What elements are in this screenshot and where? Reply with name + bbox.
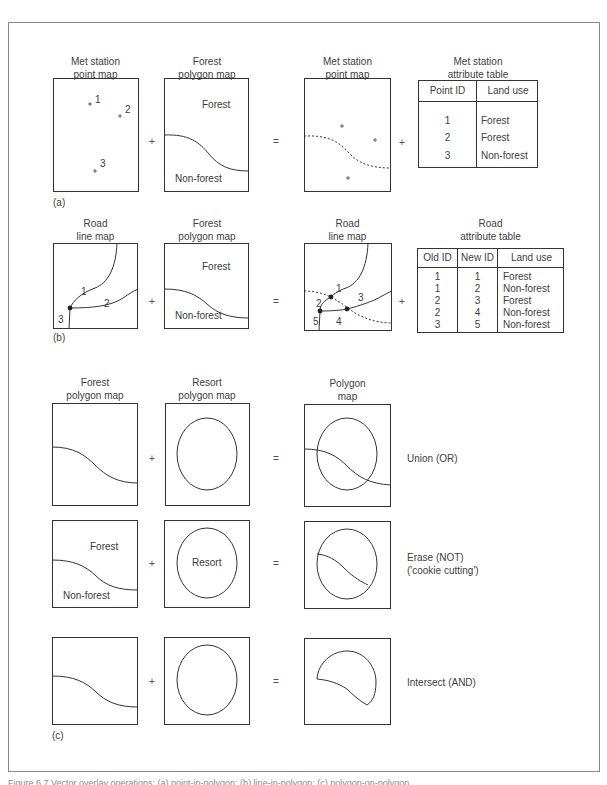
table-row-1-landuse: Forest (481, 115, 509, 126)
panel-b-output-title: Road line map (304, 217, 391, 243)
title-line: polygon map (164, 230, 250, 243)
title-line: Road (417, 217, 564, 230)
title-line: Met station (418, 55, 538, 68)
operation-description: ('cookie cutting') (407, 564, 479, 577)
table-row-3-old: 2 (418, 295, 457, 307)
operation-name: Intersect (AND) (407, 676, 476, 689)
forest-polygon-map (52, 403, 138, 506)
point-label-2: 2 (125, 104, 131, 115)
erase-result-map (304, 521, 391, 609)
road-label-4: 4 (336, 316, 342, 327)
operation-name: Erase (NOT) (407, 551, 479, 564)
intersect-result-map (304, 638, 391, 725)
table-row-4-old: 2 (418, 307, 457, 319)
title-line: Polygon (304, 377, 391, 390)
road-label-2: 2 (104, 298, 110, 309)
road-line-map (53, 243, 138, 329)
panel-b-input1-title: Road line map (53, 217, 138, 243)
panel-b-table-title: Road attribute table (417, 217, 564, 243)
road-label-3: 3 (58, 314, 64, 325)
forest-label: Forest (90, 541, 118, 552)
title-line: Forest (164, 217, 250, 230)
plus-operator: + (149, 453, 155, 464)
equals-operator: = (273, 453, 279, 464)
equals-operator: = (273, 558, 279, 569)
table-row-3-new: 3 (458, 295, 497, 307)
panel-a-label: (a) (53, 197, 65, 208)
forest-label: Forest (202, 99, 230, 110)
panel-c-input2-title: Resort polygon map (164, 376, 250, 402)
panel-c-label: (c) (52, 730, 64, 741)
road-label-1: 1 (336, 283, 342, 294)
table-row-2-id: 2 (419, 132, 476, 143)
road-attribute-table: Old ID New ID Land use 1 1 Forest 1 2 No… (417, 248, 564, 333)
road-label-1: 1 (81, 286, 87, 297)
point-label-1: 1 (95, 94, 101, 105)
met-station-attribute-table: Point ID Land use 1 Forest 2 Forest 3 No… (418, 80, 538, 168)
panel-c-output-title: Polygon map (304, 377, 391, 403)
forest-polygon-map (52, 637, 138, 725)
title-line: Met station (53, 55, 138, 68)
forest-label: Forest (202, 261, 230, 272)
title-line: Forest (164, 55, 250, 68)
header-land-use: Land use (477, 85, 539, 96)
plus-operator: + (149, 136, 155, 147)
title-line: polygon map (164, 389, 250, 402)
nonforest-label: Non-forest (63, 590, 110, 601)
plus-operator: + (149, 558, 155, 569)
met-station-overlay-map (304, 78, 391, 192)
panel-a-table-title: Met station attribute table (418, 55, 538, 81)
header-point-id: Point ID (419, 85, 476, 96)
resort-polygon-map (165, 403, 250, 506)
table-row-2-new: 2 (458, 283, 497, 295)
title-line: Met station (304, 55, 391, 68)
header-old-id: Old ID (418, 252, 457, 264)
panel-b-label: (b) (53, 332, 65, 343)
equals-operator: = (273, 136, 279, 147)
plus-operator: + (399, 137, 405, 148)
title-line: Road (304, 217, 391, 230)
title-line: attribute table (417, 230, 564, 243)
title-line: line map (304, 230, 391, 243)
table-row-3-landuse: Non-forest (481, 150, 528, 161)
plus-operator: + (149, 296, 155, 307)
road-label-2: 2 (316, 298, 322, 309)
plus-operator: + (399, 296, 405, 307)
panel-b-input2-title: Forest polygon map (164, 217, 250, 243)
title-line: Resort (164, 376, 250, 389)
point-label-3: 3 (100, 158, 106, 169)
table-row-1-id: 1 (419, 115, 476, 126)
nonforest-label: Non-forest (175, 173, 222, 184)
table-row-5-new: 5 (458, 319, 497, 331)
title-line: line map (53, 230, 138, 243)
union-result-map (304, 404, 391, 507)
equals-operator: = (273, 676, 279, 687)
table-row-4-landuse: Non-forest (503, 307, 550, 319)
table-row-1-landuse: Forest (503, 271, 531, 283)
resort-polygon-map (164, 637, 250, 725)
operation-name: Union (OR) (407, 452, 458, 465)
table-row-4-new: 4 (458, 307, 497, 319)
table-row-1-new: 1 (458, 271, 497, 283)
table-row-1-old: 1 (418, 271, 457, 283)
figure-caption: Figure 6.7 Vector overlay operations: (a… (8, 778, 409, 785)
table-row-2-landuse: Forest (481, 132, 509, 143)
table-row-3-landuse: Forest (503, 295, 531, 307)
header-new-id: New ID (458, 252, 497, 264)
table-row-2-old: 1 (418, 283, 457, 295)
panel-c-input1-title: Forest polygon map (52, 376, 138, 402)
equals-operator: = (273, 296, 279, 307)
resort-label: Resort (192, 557, 221, 568)
title-line: Forest (52, 376, 138, 389)
header-land-use: Land use (498, 252, 565, 264)
title-line: Road (53, 217, 138, 230)
nonforest-label: Non-forest (175, 310, 222, 321)
plus-operator: + (149, 676, 155, 687)
intersect-operation-label: Intersect (AND) (407, 676, 476, 689)
union-operation-label: Union (OR) (407, 452, 458, 465)
road-label-5: 5 (313, 316, 319, 327)
title-line: polygon map (52, 389, 138, 402)
title-line: map (304, 390, 391, 403)
table-row-3-id: 3 (419, 150, 476, 161)
table-row-5-old: 3 (418, 319, 457, 331)
